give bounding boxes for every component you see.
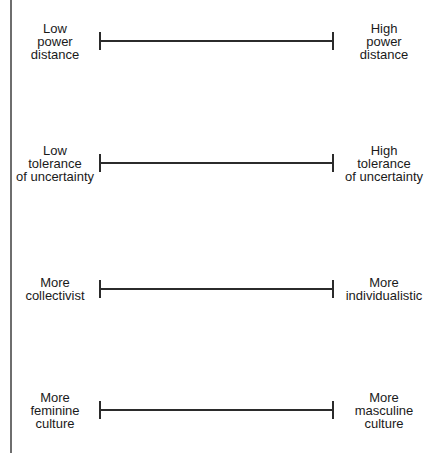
scale-bar (100, 409, 334, 411)
left-frame-rule (10, 0, 12, 453)
right-end-tick (332, 401, 334, 419)
right-end-tick (332, 32, 334, 50)
left-pole-label: More collectivist (14, 276, 96, 302)
scale-bar (100, 288, 334, 290)
right-end-tick (332, 280, 334, 298)
right-pole-label: More masculine culture (336, 391, 432, 430)
left-pole-label: Low power distance (14, 22, 96, 61)
left-pole-label: More feminine culture (14, 391, 96, 430)
right-pole-label: High tolerance of uncertainty (336, 144, 432, 183)
scale-bar (100, 40, 334, 42)
right-pole-label: High power distance (336, 22, 432, 61)
right-pole-label: More individualistic (336, 276, 432, 302)
right-end-tick (332, 154, 334, 172)
scale-bar (100, 162, 334, 164)
left-pole-label: Low tolerance of uncertainty (14, 144, 96, 183)
